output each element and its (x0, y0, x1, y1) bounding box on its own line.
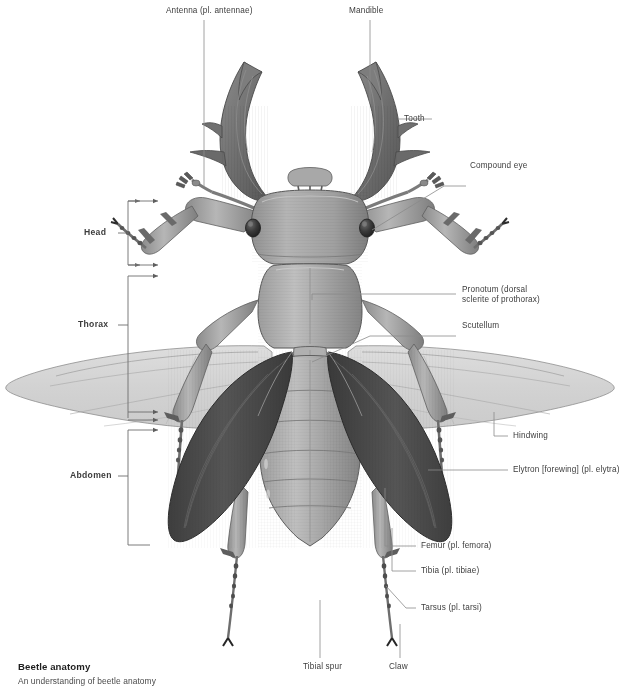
elytron-left (166, 350, 296, 548)
label-pronotum-line2: sclerite of prothorax) (462, 295, 540, 306)
label-claw: Claw (389, 662, 408, 673)
label-thorax: Thorax (78, 319, 108, 330)
head (246, 190, 375, 264)
label-tibia: Tibia (pl. tibiae) (421, 566, 479, 577)
label-scutellum: Scutellum (462, 321, 499, 332)
label-compound-eye: Compound eye (470, 161, 527, 172)
label-head: Head (84, 227, 106, 238)
label-elytron: Elytron [forewing] (pl. elytra) (513, 465, 620, 476)
beetle-anatomy-figure: Antenna (pl. antennae) Mandible Tooth Co… (0, 0, 620, 686)
pronotum (258, 264, 362, 350)
compound-eye-left (246, 219, 261, 237)
label-femur: Femur (pl. femora) (421, 541, 492, 552)
label-mandible: Mandible (349, 6, 383, 17)
compound-eye-right (360, 219, 375, 237)
caption-title: Beetle anatomy (18, 661, 318, 672)
label-pronotum-line1: Pronotum (dorsal (462, 285, 527, 296)
elytron-right (324, 350, 454, 548)
caption-subtitle: An understanding of beetle anatomy (18, 676, 318, 686)
figure-caption: Beetle anatomy An understanding of beetl… (18, 661, 318, 686)
label-antenna: Antenna (pl. antennae) (166, 6, 253, 17)
label-tooth: Tooth (404, 114, 425, 125)
beetle-diagram-svg (0, 0, 620, 686)
label-abdomen: Abdomen (70, 470, 112, 481)
label-hindwing: Hindwing (513, 431, 548, 442)
mandible-right (350, 62, 430, 201)
mandible-left (190, 62, 270, 201)
label-tarsus: Tarsus (pl. tarsi) (421, 603, 482, 614)
